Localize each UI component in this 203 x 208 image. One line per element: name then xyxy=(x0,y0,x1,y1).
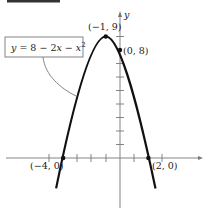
label-y-intercept: (0, 8) xyxy=(123,45,149,56)
equation-label: y = 8 − 2x − x2 xyxy=(10,41,86,53)
point-y-intercept xyxy=(118,48,122,52)
y-axis-label: y xyxy=(123,9,130,20)
equation-leader-line xyxy=(43,57,76,96)
label-vertex: (−1, 9) xyxy=(88,21,122,32)
label-x-intercept-right: (2, 0) xyxy=(152,160,178,171)
point-x-intercept-right xyxy=(146,156,150,160)
parabola-curve xyxy=(56,37,155,189)
parabola-figure: y (−1, 9) (0, 8) (−4, 0) (2, 0) y = 8 − … xyxy=(0,0,203,208)
label-x-intercept-left: (−4, 0) xyxy=(30,160,64,171)
top-border-fragment xyxy=(7,0,60,3)
point-vertex xyxy=(104,34,108,38)
y-axis-arrow-icon xyxy=(118,11,122,17)
x-axis-arrow-icon xyxy=(198,156,203,160)
